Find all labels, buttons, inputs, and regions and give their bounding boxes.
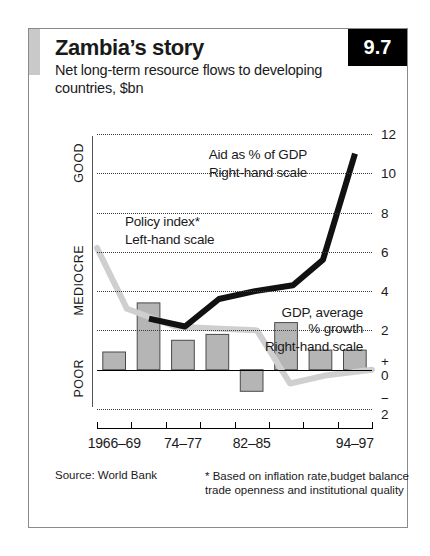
x-tick-mark	[166, 422, 167, 429]
gridline	[97, 409, 372, 410]
bar-82–85	[240, 370, 263, 392]
x-tick-mark	[372, 422, 373, 429]
x-tick-mark	[338, 422, 339, 429]
source-note: Source: World Bank	[55, 469, 157, 481]
accent-bar	[29, 29, 40, 75]
y-tick-label-2: 2	[381, 323, 405, 338]
annotation-gdp-scale: Right-hand scale	[265, 339, 363, 355]
x-axis-label-94–97: 94–97	[336, 435, 374, 451]
page-title: Zambia’s story	[55, 35, 204, 61]
qual-label-mediocre: MEDIOCRE	[72, 242, 86, 319]
qualitative-axis-rule	[92, 136, 93, 407]
x-tick-mark	[235, 422, 236, 429]
y-tick-label-8: 8	[381, 205, 405, 220]
y-tick-label-4: 4	[381, 284, 405, 299]
bar-74–77	[172, 340, 195, 370]
gridline	[97, 252, 372, 253]
annotation-policy-scale: Left-hand scale	[125, 232, 214, 248]
footnote-note: * Based on inflation rate,budget balance…	[205, 469, 409, 497]
chart-subtitle: Net long-term resource flows to developi…	[55, 61, 345, 97]
bar-78–81	[206, 334, 229, 369]
annotation-gdp-title-1: GDP, average	[282, 305, 363, 321]
bar-1966–69	[103, 352, 126, 370]
zero-baseline	[97, 370, 372, 371]
y-tick-label-6: 6	[381, 244, 405, 259]
qual-label-poor: POOR	[72, 356, 86, 400]
y-tick-label-minus: −	[381, 391, 405, 406]
x-axis-label-74–77: 74–77	[164, 435, 202, 451]
annotation-policy-title: Policy index*	[125, 214, 200, 230]
footnote-line-1: * Based on inflation rate,budget balance	[205, 469, 409, 483]
gridline	[97, 291, 372, 292]
x-tick-mark	[97, 422, 98, 429]
footnote-line-2: trade openness and institutional quality	[205, 483, 409, 497]
x-tick-mark	[303, 422, 304, 429]
gridline	[97, 134, 372, 135]
qualitative-axis: GOOD MEDIOCRE POOR	[81, 134, 97, 409]
qual-label-good: GOOD	[72, 140, 86, 186]
y-tick-label-0: 0	[381, 367, 405, 382]
x-axis-label-1966–69: 1966–69	[88, 435, 141, 451]
figure-number-badge: 9.7	[348, 29, 407, 66]
chart-card: 9.7 Zambia’s story Net long-term resourc…	[28, 28, 408, 528]
x-tick-mark	[131, 422, 132, 429]
y-tick-label-10: 10	[381, 166, 405, 181]
x-tick-mark	[200, 422, 201, 429]
x-axis	[97, 428, 372, 429]
annotation-aid-title: Aid as % of GDP	[209, 147, 307, 163]
x-tick-mark	[269, 422, 270, 429]
y-tick-label-plus: +	[381, 353, 405, 368]
x-axis-label-82–85: 82–85	[233, 435, 271, 451]
y-tick-label-neg2: 2	[381, 407, 405, 422]
annotation-aid-scale: Right-hand scale	[209, 165, 307, 181]
annotation-gdp-title-2: % growth	[308, 321, 363, 337]
y-tick-label-12: 12	[381, 127, 405, 142]
